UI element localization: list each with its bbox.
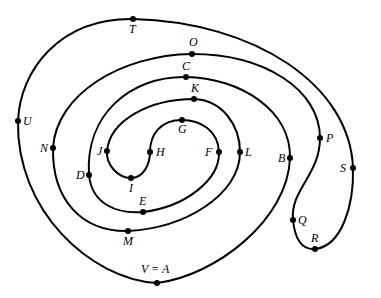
point-d — [86, 172, 92, 178]
point-f — [216, 149, 222, 155]
label-e: E — [138, 194, 147, 208]
label-r: R — [310, 231, 319, 245]
label-v-equals-a: V = A — [141, 262, 170, 276]
point-k — [191, 96, 197, 102]
label-p: P — [325, 131, 334, 145]
label-g: G — [178, 122, 187, 136]
label-h: H — [155, 145, 166, 159]
point-n — [50, 145, 56, 151]
point-s — [350, 165, 356, 171]
label-j: J — [97, 144, 103, 158]
point-u — [15, 118, 21, 124]
point-l — [237, 149, 243, 155]
label-l: L — [244, 145, 252, 159]
point-p — [317, 135, 323, 141]
point-c — [183, 74, 189, 80]
spiral-diagram: V = A B C D E F G H I J K L M N O P Q R … — [0, 0, 381, 298]
label-b: B — [278, 151, 286, 165]
point-e — [140, 209, 146, 215]
point-h — [147, 149, 153, 155]
points — [15, 16, 356, 286]
label-u: U — [23, 114, 33, 128]
label-q: Q — [298, 213, 307, 227]
label-s: S — [340, 161, 346, 175]
label-n: N — [39, 141, 49, 155]
label-t: T — [129, 22, 137, 36]
label-k: K — [190, 81, 200, 95]
point-o — [189, 51, 195, 57]
point-r — [312, 246, 318, 252]
label-m: M — [122, 234, 134, 248]
point-j — [104, 148, 110, 154]
label-i: I — [128, 181, 134, 195]
point-a — [154, 280, 160, 286]
point-q — [290, 217, 296, 223]
label-c: C — [182, 59, 191, 73]
label-d: D — [75, 168, 85, 182]
point-b — [287, 155, 293, 161]
label-f: F — [204, 145, 213, 159]
label-o: O — [189, 35, 198, 49]
